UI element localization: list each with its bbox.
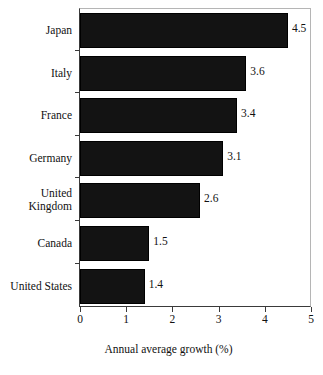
x-axis-tick <box>172 307 173 312</box>
x-axis-title: Annual average growth (%) <box>0 343 323 355</box>
y-axis-tick <box>75 263 80 264</box>
category-label: United States <box>0 280 72 293</box>
bar-value-label: 3.4 <box>241 107 255 119</box>
category-label-line: France <box>0 109 72 122</box>
bar <box>80 56 246 91</box>
bar-value-label: 1.4 <box>149 278 163 290</box>
x-axis-tick-labels: 012345 <box>0 313 323 329</box>
bar-row: Canada1.5 <box>0 222 323 265</box>
bar-value-label: 4.5 <box>292 22 306 34</box>
y-axis-tick <box>75 92 80 93</box>
x-axis-title-text: Annual average growth (%) <box>104 343 232 355</box>
x-axis-tick <box>265 307 266 312</box>
bar <box>80 226 149 261</box>
x-axis-tick-label: 0 <box>70 313 90 325</box>
bar <box>80 13 288 48</box>
category-label: Canada <box>0 237 72 250</box>
bar <box>80 141 223 176</box>
bar-value-label: 2.6 <box>204 192 218 204</box>
bar-value-label: 3.1 <box>227 150 241 162</box>
x-axis-tick-label: 1 <box>116 313 136 325</box>
x-axis-tick <box>126 307 127 312</box>
y-axis-tick <box>75 220 80 221</box>
x-axis-tick <box>311 307 312 312</box>
x-axis-tick <box>219 307 220 312</box>
category-label-line: United <box>0 187 72 200</box>
y-axis-tick <box>75 135 80 136</box>
bar-row: France3.4 <box>0 94 323 137</box>
bar-value-label: 1.5 <box>153 235 167 247</box>
bar-row: United States1.4 <box>0 265 323 308</box>
category-label-line: Germany <box>0 152 72 165</box>
category-label: France <box>0 109 72 122</box>
category-label-line: Canada <box>0 237 72 250</box>
category-label: Germany <box>0 152 72 165</box>
category-label: UnitedKingdom <box>0 187 72 212</box>
bar <box>80 183 200 218</box>
x-axis-tick-label: 2 <box>162 313 182 325</box>
category-label-line: United States <box>0 280 72 293</box>
category-label-line: Italy <box>0 67 72 80</box>
y-axis-tick <box>75 50 80 51</box>
x-axis-tick <box>80 307 81 312</box>
bar <box>80 98 237 133</box>
bar <box>80 269 145 304</box>
category-label: Italy <box>0 67 72 80</box>
category-label: Japan <box>0 24 72 37</box>
bar-row: Germany3.1 <box>0 137 323 180</box>
category-label-line: Japan <box>0 24 72 37</box>
bar-row: Japan4.5 <box>0 9 323 52</box>
y-axis-tick <box>75 177 80 178</box>
category-label-line: Kingdom <box>0 200 72 213</box>
bar-value-label: 3.6 <box>250 65 264 77</box>
x-axis-tick-label: 4 <box>255 313 275 325</box>
x-axis-tick-label: 5 <box>301 313 321 325</box>
x-axis-tick-label: 3 <box>209 313 229 325</box>
bar-row: UnitedKingdom2.6 <box>0 179 323 222</box>
bar-chart: Japan4.5Italy3.6France3.4Germany3.1Unite… <box>0 0 323 375</box>
bar-row: Italy3.6 <box>0 52 323 95</box>
